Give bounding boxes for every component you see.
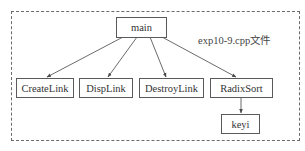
node-keyi: keyi [221, 114, 260, 134]
node-keyi-label: keyi [231, 119, 249, 130]
node-displink-label: DispLink [86, 83, 126, 94]
file-label: exp10-9.cpp文件 [198, 32, 270, 47]
node-displink: DispLink [79, 78, 133, 98]
edge-main-createlink [47, 37, 123, 77]
node-destroylink: DestroyLink [139, 78, 204, 98]
node-destroylink-label: DestroyLink [145, 83, 198, 94]
node-main-label: main [131, 22, 152, 33]
node-main: main [116, 17, 167, 38]
node-createlink-label: CreateLink [21, 83, 68, 94]
diagram-canvas: main exp10-9.cpp文件 CreateLink DispLink D… [0, 0, 305, 151]
node-radixsort: RadixSort [210, 78, 273, 98]
node-createlink: CreateLink [16, 78, 74, 98]
node-radixsort-label: RadixSort [220, 83, 263, 94]
edge-main-destroylink [150, 37, 166, 77]
